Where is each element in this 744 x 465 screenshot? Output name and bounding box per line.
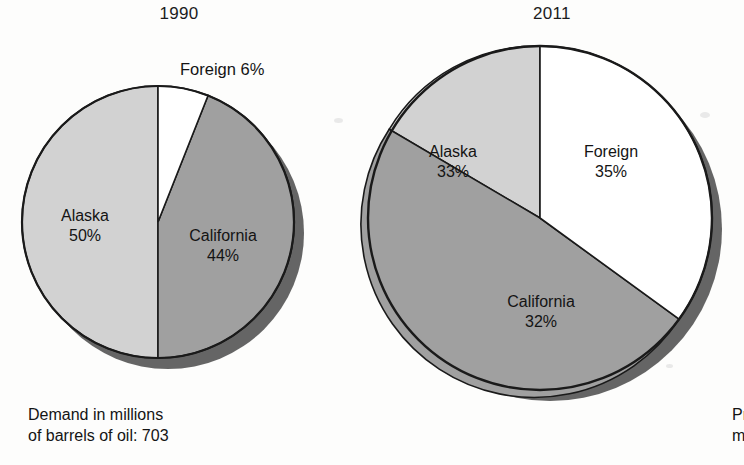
pie-svg-2011 (366, 44, 732, 410)
pie-chart-1990: 1990 Foreign 6% Alaska 50% California (0, 0, 360, 465)
chart-title-2011: 2011 (360, 4, 744, 24)
pie-graphic-2011 (366, 44, 732, 410)
pie-graphic-1990 (22, 86, 312, 376)
chart-caption-1990: Demand in millions of barrels of oil: 70… (28, 404, 169, 447)
pie-chart-2011: 2011 Alaska 33% Foreign 35% Cali (360, 0, 744, 465)
chart-caption-2011: Projected demand in millions of barrels … (732, 404, 744, 447)
slice-label-foreign-1990: Foreign 6% (180, 60, 264, 79)
caption-line-1: Demand in millions (28, 404, 169, 425)
caption-line-1: Projected demand in (732, 404, 744, 425)
pie-slice-alaska-1990[interactable] (22, 86, 158, 358)
chart-title-1990: 1990 (0, 4, 359, 24)
caption-line-2: millions of barrels of oil: 891 (732, 425, 744, 446)
caption-line-2: of barrels of oil: 703 (28, 425, 169, 446)
figure-canvas: 1990 Foreign 6% Alaska 50% California (0, 0, 744, 465)
pie-svg-1990 (22, 86, 312, 376)
